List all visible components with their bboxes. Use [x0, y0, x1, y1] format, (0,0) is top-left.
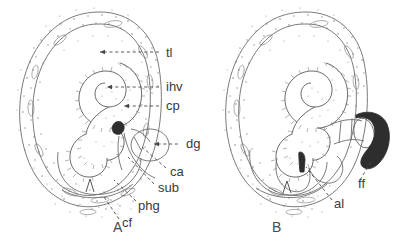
- label-ihv: ihv: [166, 79, 183, 94]
- label-al: al: [334, 196, 344, 211]
- segmented-band-lower: [334, 140, 364, 144]
- band-septum-1: [339, 121, 341, 143]
- ca-strut: [134, 137, 141, 150]
- label-tl: tl: [166, 45, 173, 60]
- panel-b: ff al B: [222, 7, 389, 235]
- label-ca: ca: [170, 164, 185, 179]
- label-cf: cf: [122, 215, 133, 230]
- embryo-diagram: tl ihv cp dg ca sub phg cf A: [0, 0, 396, 248]
- figure-container: tl ihv cp dg ca sub phg cf A: [0, 0, 396, 248]
- label-sub: sub: [158, 180, 179, 195]
- panel-letter-a: A: [113, 219, 123, 235]
- pigment-spot: [112, 121, 124, 134]
- label-cp: cp: [166, 98, 180, 113]
- panel-a: tl ihv cp dg ca sub phg cf A: [16, 7, 200, 235]
- label-dg: dg: [186, 136, 200, 151]
- label-phg: phg: [138, 198, 160, 213]
- dark-stalk: [299, 152, 305, 172]
- digestive-gland-oval: [131, 129, 169, 161]
- label-ff: ff: [358, 176, 365, 191]
- panel-letter-b: B: [272, 219, 281, 235]
